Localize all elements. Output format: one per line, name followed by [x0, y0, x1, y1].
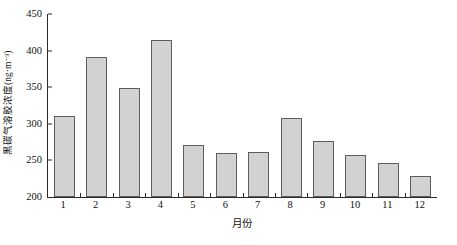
y-tick-mark — [48, 160, 52, 161]
x-tick-mark — [275, 193, 276, 197]
bar — [378, 163, 399, 197]
x-tick-mark — [405, 193, 406, 197]
x-tick-label: 6 — [223, 200, 228, 211]
bar — [216, 153, 237, 197]
x-tick-label: 1 — [61, 200, 66, 211]
plot-area — [47, 14, 437, 198]
x-tick-label: 8 — [288, 200, 293, 211]
y-tick-mark — [48, 87, 52, 88]
y-tick-label: 400 — [26, 45, 42, 56]
x-tick-label: 5 — [190, 200, 195, 211]
x-tick-mark — [145, 193, 146, 197]
x-tick-label: 7 — [255, 200, 260, 211]
x-tick-mark — [210, 193, 211, 197]
x-tick-label: 11 — [382, 200, 392, 211]
x-tick-mark — [243, 193, 244, 197]
y-axis-title-text: 黑碳气溶胶浓度(ng·m⁻³) — [4, 50, 14, 154]
x-tick-label: 2 — [93, 200, 98, 211]
x-tick-mark — [178, 193, 179, 197]
x-tick-label: 12 — [415, 200, 426, 211]
y-tick-mark — [48, 123, 52, 124]
x-tick-label: 9 — [320, 200, 325, 211]
bar — [86, 57, 107, 197]
y-tick-label: 250 — [26, 155, 42, 166]
bar-chart: 黑碳气溶胶浓度(ng·m⁻³) 200250300350400450 12345… — [0, 0, 457, 245]
x-tick-mark — [307, 193, 308, 197]
bar — [183, 145, 204, 197]
bar — [119, 88, 140, 197]
x-tick-mark — [340, 193, 341, 197]
bar — [345, 155, 366, 197]
y-axis-tick-labels: 200250300350400450 — [16, 14, 44, 198]
x-tick-label: 3 — [125, 200, 130, 211]
x-tick-label: 10 — [350, 200, 361, 211]
y-tick-label: 450 — [26, 9, 42, 20]
bar — [281, 118, 302, 197]
y-tick-mark — [48, 50, 52, 51]
y-tick-mark — [48, 14, 52, 15]
x-tick-mark — [80, 193, 81, 197]
x-axis-title: 月份 — [47, 219, 437, 230]
x-tick-mark — [372, 193, 373, 197]
x-tick-mark — [113, 193, 114, 197]
bar — [248, 152, 269, 197]
bar — [313, 141, 334, 197]
bar — [410, 176, 431, 197]
y-tick-label: 200 — [26, 192, 42, 203]
y-tick-label: 350 — [26, 82, 42, 93]
y-tick-label: 300 — [26, 119, 42, 130]
bar — [54, 116, 75, 197]
x-axis-tick-labels: 123456789101112 — [47, 200, 437, 216]
bar — [151, 40, 172, 197]
x-tick-label: 4 — [158, 200, 163, 211]
